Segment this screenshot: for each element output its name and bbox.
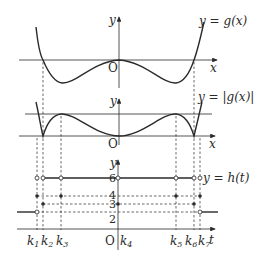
y-axis-label: y xyxy=(108,13,116,27)
function-label-abs-g: y = |g(x)| xyxy=(197,90,254,104)
y-tick-3: 3 xyxy=(109,198,116,211)
graph-g-x: y x O y = g(x) xyxy=(19,13,248,88)
function-label-g: y = g(x) xyxy=(198,14,248,28)
diagram-canvas: y x O y = g(x) y x O y = |g(x)| xyxy=(0,0,262,255)
k1-label: k1 xyxy=(27,234,39,249)
origin-label: O xyxy=(108,61,118,75)
y-tick-6: 6 xyxy=(109,172,116,185)
graph-abs-g-x: y x O y = |g(x)| xyxy=(19,90,254,151)
curve-g xyxy=(36,22,204,83)
origin-label: O xyxy=(105,234,115,248)
k6-label: k6 xyxy=(185,234,197,249)
k2-label: k2 xyxy=(41,234,53,249)
k5-label: k5 xyxy=(170,234,182,249)
k3-label: k3 xyxy=(56,234,68,249)
y-axis-label: y xyxy=(109,156,117,170)
function-label-h: y = h(t) xyxy=(202,171,250,185)
origin-label: O xyxy=(108,137,118,151)
y-tick-2: 2 xyxy=(109,213,116,226)
x-axis-label: x xyxy=(210,61,217,75)
k4-label: k4 xyxy=(120,234,132,249)
graph-h-t: 6 4 3 2 y t O y = h(t) k1 k2 k3 k4 k5 k6… xyxy=(17,156,250,250)
k-labels: k1 k2 k3 k4 k5 k6 k7 xyxy=(27,234,211,249)
y-axis-label: y xyxy=(109,94,117,108)
x-axis-label: x xyxy=(209,137,216,151)
